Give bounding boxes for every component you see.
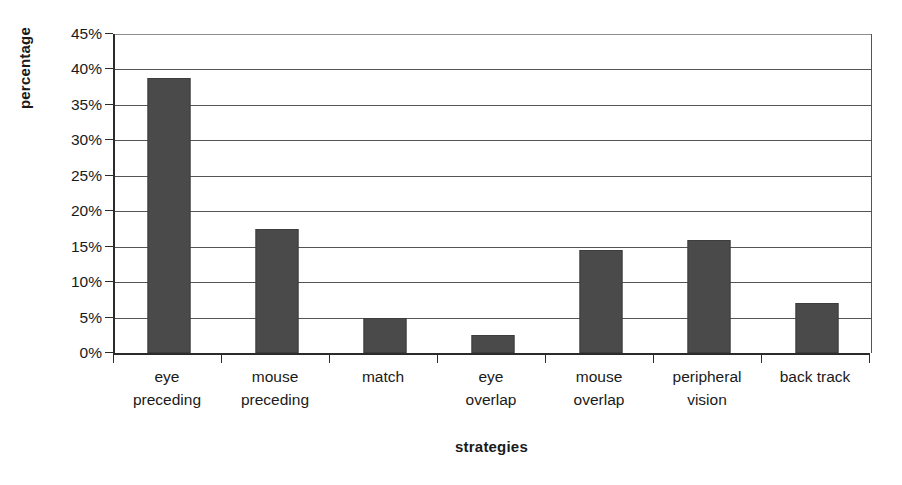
y-axis-tick-label: 45% [44, 26, 102, 42]
bar[interactable] [256, 229, 299, 353]
category-label-line: peripheral [673, 368, 742, 385]
bar-slot [763, 34, 871, 353]
bar[interactable] [688, 240, 731, 353]
x-axis-tick-mark [113, 355, 114, 363]
bar-slot [439, 34, 547, 353]
y-axis-tick-label: 35% [44, 97, 102, 113]
x-axis-tick-mark [329, 355, 330, 363]
y-axis-tick-mark [105, 175, 113, 176]
y-axis-tick-label: 40% [44, 61, 102, 77]
x-axis-tick-mark [761, 355, 762, 363]
y-axis-tick-label: 0% [44, 345, 102, 361]
category-label-line: eye [479, 368, 504, 385]
y-axis-tick-mark [105, 317, 113, 318]
category-label-line: eye [155, 368, 180, 385]
x-axis-category-label: match [329, 365, 437, 388]
bar-chart-figure: percentage 45%40%35%30%25%20%15%10%5%0% … [0, 0, 902, 485]
plot-area [113, 34, 872, 353]
bar[interactable] [580, 250, 623, 353]
y-axis-tick-mark [105, 352, 113, 353]
bar-series [115, 34, 871, 353]
x-axis-tick-mark [437, 355, 438, 363]
x-axis-title: strategies [113, 438, 870, 455]
category-label-line: preceding [221, 388, 329, 411]
category-label-line: vision [653, 388, 761, 411]
y-axis-tick-label: 5% [44, 310, 102, 326]
x-axis-tick-mark [653, 355, 654, 363]
y-axis-tick-mark [105, 104, 113, 105]
bar-slot [655, 34, 763, 353]
x-axis-tick-mark [221, 355, 222, 363]
x-axis-category-label: eyepreceding [113, 365, 221, 411]
y-axis-tick-mark [105, 281, 113, 282]
x-axis-tick-mark [545, 355, 546, 363]
category-label-line: overlap [437, 388, 545, 411]
y-axis-tick-label: 20% [44, 203, 102, 219]
x-axis-category-label: mouseoverlap [545, 365, 653, 411]
category-label-line: match [362, 368, 404, 385]
category-label-line: mouse [252, 368, 299, 385]
bar[interactable] [148, 78, 191, 353]
y-axis-tick-mark [105, 246, 113, 247]
y-axis-tick-label: 10% [44, 274, 102, 290]
x-axis-category-label: eyeoverlap [437, 365, 545, 411]
bar[interactable] [472, 335, 515, 353]
x-axis-category-label: peripheralvision [653, 365, 761, 411]
y-axis-tick-mark [105, 139, 113, 140]
bar-slot [223, 34, 331, 353]
y-axis-tick-label: 25% [44, 168, 102, 184]
y-axis-title: percentage [11, 0, 39, 148]
category-label-line: mouse [576, 368, 623, 385]
bar-slot [547, 34, 655, 353]
category-label-line: preceding [113, 388, 221, 411]
bar[interactable] [364, 318, 407, 353]
x-axis-tick-mark [869, 355, 870, 363]
bar-slot [331, 34, 439, 353]
bar-slot [115, 34, 223, 353]
category-label-line: overlap [545, 388, 653, 411]
y-axis-tick-labels: 45%40%35%30%25%20%15%10%5%0% [44, 0, 102, 485]
category-label-line: back track [780, 368, 851, 385]
bar[interactable] [796, 303, 839, 353]
y-axis-tick-label: 30% [44, 132, 102, 148]
y-axis-tick-mark [105, 33, 113, 34]
x-axis-category-label: mousepreceding [221, 365, 329, 411]
x-axis-line [113, 353, 870, 355]
y-axis-tick-mark [105, 68, 113, 69]
y-axis-tick-label: 15% [44, 239, 102, 255]
x-axis-category-label: back track [761, 365, 869, 388]
y-axis-tick-mark [105, 210, 113, 211]
